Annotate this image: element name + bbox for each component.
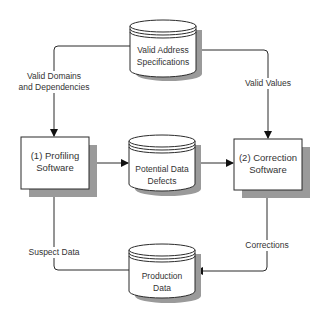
node-label-line2: Data	[129, 282, 195, 294]
edge-valid-values	[196, 50, 268, 138]
node-label-line1: (2) Correction	[234, 152, 302, 164]
edge-label-valid-values: Valid Values	[238, 78, 298, 89]
edge-label-suspect-data: Suspect Data	[24, 247, 84, 258]
edge-corrections	[196, 190, 267, 271]
node-label-line1: Production	[129, 270, 195, 282]
node-label-line2: Software	[234, 164, 302, 176]
edge-label-corrections: Corrections	[239, 240, 295, 251]
node-label-line2: Defects	[129, 175, 195, 187]
edge-suspect-data	[54, 190, 129, 270]
edge-label-valid-domains: Valid Domains and Dependencies	[12, 71, 96, 93]
node-label-line1: Valid Address	[130, 44, 196, 56]
node-label-potential-defects: Potential Data Defects	[129, 163, 195, 187]
edge-label-line1: Valid Domains	[12, 71, 96, 82]
node-label-line2: Specifications	[130, 56, 196, 68]
node-label-line1: Potential Data	[129, 163, 195, 175]
node-label-line2: Software	[21, 162, 89, 174]
node-label-profiling-software: (1) Profiling Software	[21, 150, 89, 174]
node-label-correction-software: (2) Correction Software	[234, 152, 302, 176]
edge-label-line2: and Dependencies	[12, 82, 96, 93]
node-label-production-data: Production Data	[129, 270, 195, 294]
node-label-line1: (1) Profiling	[21, 150, 89, 162]
node-label-valid-address-specs: Valid Address Specifications	[130, 44, 196, 68]
